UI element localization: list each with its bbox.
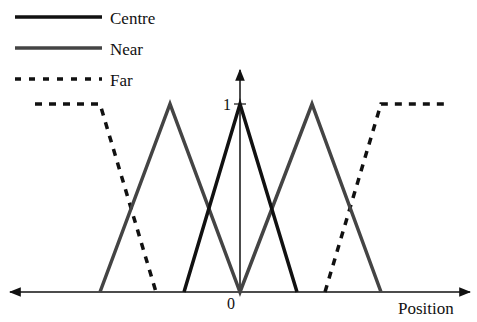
x-axis-label: Position [398, 299, 454, 318]
y-tick-label: 1 [223, 96, 231, 113]
legend-item-near: Near [15, 40, 143, 59]
legend-item-centre: Centre [15, 9, 155, 28]
legend-label-far: Far [110, 71, 133, 90]
legend-item-far: Far [15, 71, 133, 90]
legend: Centre Near Far [15, 9, 155, 90]
legend-label-centre: Centre [110, 9, 155, 28]
origin-label: 0 [227, 295, 235, 312]
legend-label-near: Near [110, 40, 143, 59]
series-far-left [35, 104, 156, 292]
series-far-right [325, 104, 445, 292]
membership-chart: Centre Near Far 1 0 Position [0, 0, 477, 322]
